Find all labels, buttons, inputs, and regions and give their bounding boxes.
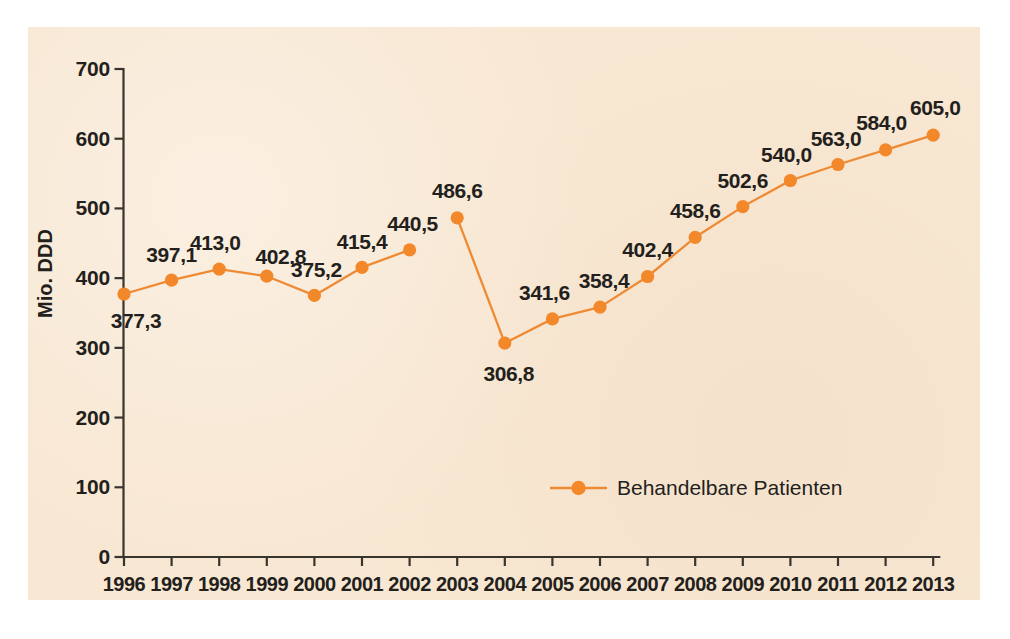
data-point-value-label: 502,6 [718, 169, 769, 193]
y-axis-tick-label: 500 [48, 196, 110, 220]
data-point-value-label: 306,8 [484, 362, 535, 386]
data-point-value-label: 377,3 [111, 309, 162, 333]
data-point-value-label: 413,0 [190, 231, 241, 255]
data-point-value-label: 440,5 [387, 212, 438, 236]
y-axis-tick-label: 100 [48, 475, 110, 499]
data-point-value-label: 605,0 [910, 96, 961, 120]
data-point-value-label: 375,2 [291, 258, 342, 282]
y-axis-tick-label: 600 [48, 127, 110, 151]
y-axis-tick-label: 300 [48, 336, 110, 360]
chart-figure: Mio. DDD 0100200300400500600700 19961997… [0, 0, 1010, 639]
data-point-value-label: 563,0 [811, 127, 862, 151]
data-point-value-label: 341,6 [519, 281, 570, 305]
y-axis-tick-label: 700 [48, 57, 110, 81]
y-axis-tick-label: 0 [48, 545, 110, 569]
chart-panel-background [28, 27, 980, 600]
data-point-value-label: 540,0 [761, 143, 812, 167]
data-point-value-label: 402,4 [622, 238, 673, 262]
data-point-value-label: 415,4 [337, 230, 388, 254]
y-axis-tick-label: 400 [48, 266, 110, 290]
y-axis-tick-label: 200 [48, 406, 110, 430]
data-point-value-label: 458,6 [670, 199, 721, 223]
data-point-value-label: 584,0 [856, 111, 907, 135]
data-point-value-label: 358,4 [579, 269, 630, 293]
data-point-value-label: 486,6 [432, 179, 483, 203]
legend-entry-label: Behandelbare Patienten [617, 476, 842, 500]
x-axis-tick-label: 2013 [903, 573, 963, 596]
